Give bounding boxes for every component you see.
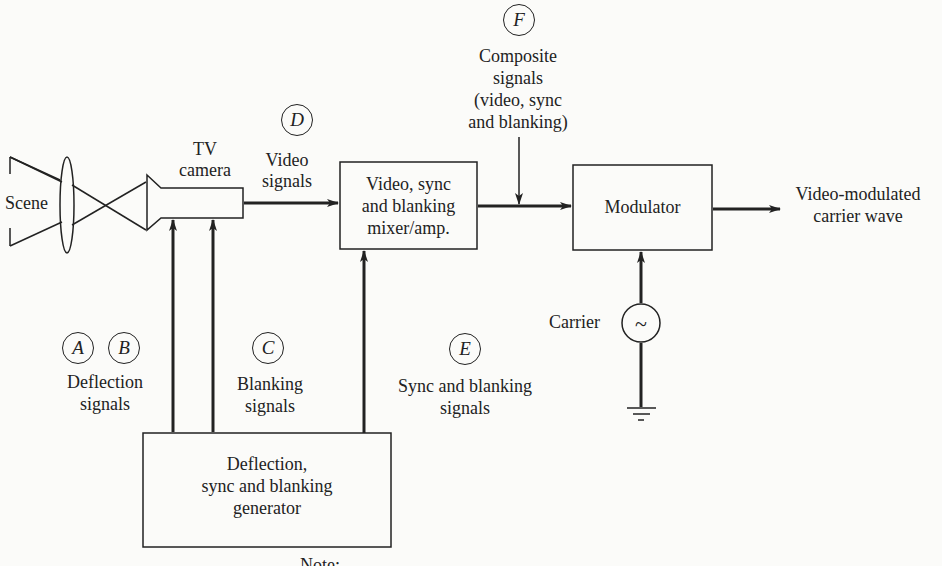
label-c: C [252, 332, 284, 364]
output-label-1: Video-modulated [783, 184, 933, 205]
camera-body [147, 175, 243, 230]
label-a: A [62, 332, 94, 364]
label-f: F [503, 4, 535, 36]
label-b: B [108, 332, 140, 364]
composite-label-1: Composite [450, 46, 586, 67]
composite-label-4: and blanking) [450, 112, 586, 133]
blanking-label-1: Blanking [225, 374, 315, 395]
modulator-label: Modulator [573, 197, 712, 218]
deflection-label-2: signals [55, 394, 155, 415]
mixer-label-1: Video, sync [340, 174, 477, 195]
scene-label: Scene [5, 193, 48, 214]
lens-icon [60, 157, 74, 253]
blanking-label-2: signals [225, 396, 315, 417]
generator-label-2: sync and blanking [143, 476, 391, 497]
video-signals-label-1: Video [252, 150, 322, 171]
generator-label-1: Deflection, [143, 454, 391, 475]
mixer-label-2: and blanking [340, 196, 477, 217]
output-label-2: carrier wave [783, 206, 933, 227]
sync-blanking-label-1: Sync and blanking [370, 376, 560, 397]
camera-label-1: TV [170, 139, 240, 160]
footnote: Note: ... [300, 556, 600, 566]
sync-blanking-label-2: signals [370, 398, 560, 419]
composite-label-3: (video, sync [450, 90, 586, 111]
generator-label-3: generator [143, 498, 391, 519]
sine-icon: ~ [635, 311, 647, 336]
label-e: E [449, 333, 481, 365]
carrier-label: Carrier [549, 312, 600, 333]
camera-label-2: camera [170, 160, 240, 181]
video-signals-label-2: signals [252, 171, 322, 192]
composite-label-2: signals [450, 68, 586, 89]
mixer-label-3: mixer/amp. [340, 218, 477, 239]
deflection-label-1: Deflection [55, 372, 155, 393]
label-d: D [281, 104, 313, 136]
